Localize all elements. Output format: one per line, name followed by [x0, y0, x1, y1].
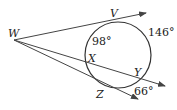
point-y-label: Y	[134, 66, 143, 79]
arc-vx-measure: 98°	[92, 35, 112, 48]
secant-line-wz	[14, 40, 138, 99]
arc-vy-measure: 146°	[148, 26, 175, 39]
point-w-label: W	[8, 27, 21, 40]
point-v-label: V	[110, 7, 119, 20]
point-z-label: Z	[95, 88, 104, 101]
arc-yz-measure: 66°	[134, 85, 154, 98]
point-x-label: X	[87, 52, 97, 65]
tangent-line-wv	[14, 13, 146, 40]
secant-tangent-diagram: W V X Y Z 98° 146° 66°	[0, 0, 177, 110]
